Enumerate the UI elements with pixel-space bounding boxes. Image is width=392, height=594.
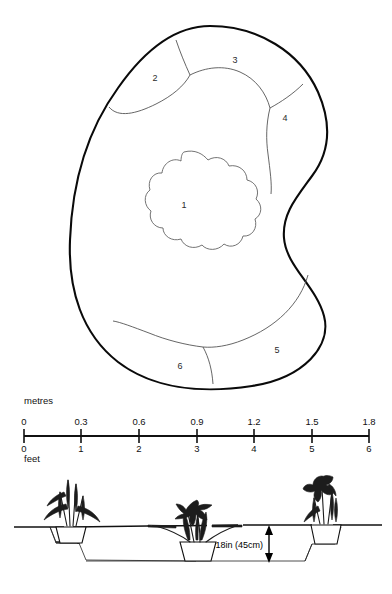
region-label-4: 4 [282, 113, 287, 123]
scale-tick-label-ft-6: 6 [366, 443, 371, 454]
scale-unit-feet: feet [24, 453, 40, 462]
region-label-5: 5 [274, 345, 279, 355]
reed-spray-right [76, 506, 100, 522]
reed-spray-left-2 [47, 492, 66, 506]
scale-tick-label-m-1: 0.3 [74, 416, 87, 427]
pond-cross-section: 18in (45cm) [0, 462, 392, 594]
scale-tick-label-ft-4: 4 [251, 443, 256, 454]
plant-pot-left [56, 527, 86, 543]
scale-tick-label-m-3: 0.9 [190, 416, 203, 427]
lily-leaf-3 [196, 514, 199, 540]
scale-tick-label-m-2: 0.6 [132, 416, 145, 427]
plant-pot-centre [180, 542, 216, 561]
depth-arrow-head-top [265, 525, 273, 535]
scale-unit-metres: metres [24, 395, 53, 406]
region-label-1: 1 [181, 200, 186, 210]
scale-bar: metres 0 0.3 0.6 0.9 1.2 1.5 1.8 0 1 2 3… [0, 392, 392, 462]
pond-plan-diagram: 1 2 3 4 5 6 [0, 0, 392, 400]
scale-tick-label-m-0: 0 [21, 416, 26, 427]
scale-tick-label-ft-2: 2 [136, 443, 141, 454]
left-deep-slope [79, 543, 196, 561]
plant-pot-right [311, 525, 341, 544]
iris-plant [303, 476, 341, 545]
region-label-6: 6 [177, 361, 182, 371]
depth-arrow-head-bottom [265, 553, 273, 563]
iris-flower [303, 476, 333, 503]
lily-pad-right [212, 525, 242, 527]
right-bank-line [305, 544, 312, 561]
scale-tick-label-ft-3: 3 [194, 443, 199, 454]
right-deep-slope [305, 544, 335, 561]
region-label-2: 2 [152, 73, 157, 83]
iris-blade-3 [335, 498, 338, 522]
water-lily-plant [148, 500, 242, 561]
iris-stem-1 [322, 488, 324, 524]
scale-tick-label-ft-1: 1 [78, 443, 83, 454]
scale-tick-label-m-4: 1.2 [247, 416, 260, 427]
scale-tick-label-ft-5: 5 [309, 443, 314, 454]
region-label-3: 3 [232, 55, 237, 65]
scale-tick-label-m-6: 1.8 [362, 416, 375, 427]
scale-tick-label-m-5: 1.5 [305, 416, 318, 427]
pond-outline [70, 26, 327, 389]
depth-label: 18in (45cm) [215, 540, 263, 550]
iris-blade-1 [331, 492, 334, 520]
figure-page: 1 2 3 4 5 6 metres 0 0.3 0.6 0.9 1.2 1.5… [0, 0, 392, 594]
